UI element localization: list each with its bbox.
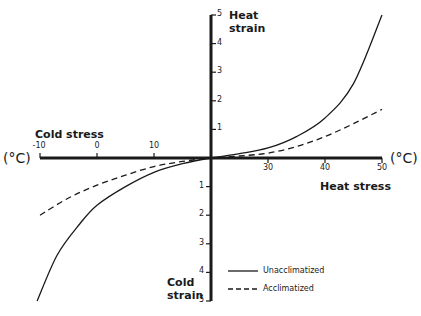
y-tick-label-cold: 1 xyxy=(199,181,204,190)
y-tick-label-heat: 1 xyxy=(217,123,222,132)
y-tick-label-heat: 4 xyxy=(217,38,222,47)
x-tick-label: -10 xyxy=(33,141,46,150)
y-tick-label-heat: 5 xyxy=(217,9,222,18)
heat-strain-label: Heat strain xyxy=(229,9,265,35)
chart-canvas xyxy=(0,0,421,316)
y-tick-label-heat: 3 xyxy=(217,66,222,75)
cold-stress-label: Cold stress xyxy=(35,128,104,141)
x-unit-left: (°C) xyxy=(3,150,31,166)
x-tick-label: 10 xyxy=(149,141,159,150)
x-tick-label: 0 xyxy=(95,141,100,150)
y-tick-label-cold: 4 xyxy=(199,266,204,275)
x-unit-right: (°C) xyxy=(390,150,418,166)
x-tick-label: 40 xyxy=(320,163,330,172)
legend-unacclimatized: Unacclimatized xyxy=(263,266,324,275)
heat-stress-label: Heat stress xyxy=(320,180,391,193)
legend-swatches xyxy=(228,271,258,289)
cold-strain-label: Cold strain xyxy=(167,276,203,302)
y-tick-label-cold: 3 xyxy=(199,238,204,247)
legend-acclimatized: Acclimatized xyxy=(263,284,314,293)
y-tick-label-heat: 2 xyxy=(217,95,222,104)
y-tick-label-cold: 2 xyxy=(199,209,204,218)
x-tick-label: 50 xyxy=(377,163,387,172)
x-tick-label: 30 xyxy=(263,163,273,172)
